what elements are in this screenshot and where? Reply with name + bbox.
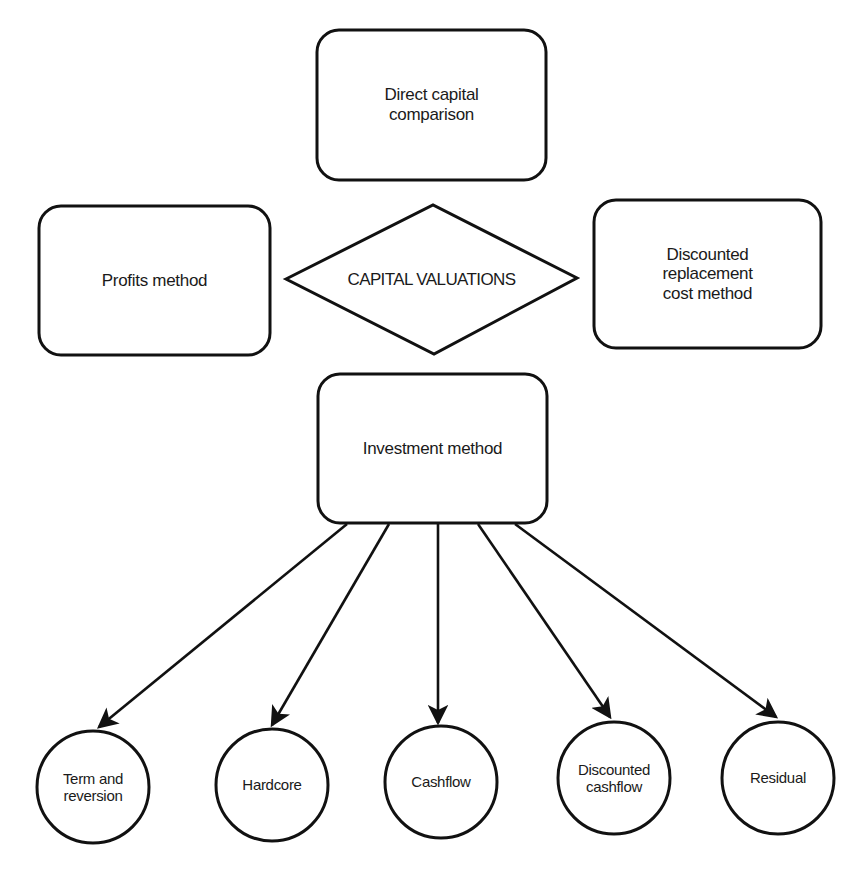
label-line: comparison bbox=[384, 105, 478, 125]
label-hardcore: Hardcore bbox=[216, 729, 328, 841]
label-profits-method: Profits method bbox=[39, 206, 270, 355]
label-line: cashflow bbox=[578, 778, 650, 795]
label-line: Cashflow bbox=[411, 773, 470, 790]
label-investment-method: Investment method bbox=[318, 374, 547, 523]
label-line: Term and bbox=[63, 770, 123, 787]
label-capital-valuations: CAPITAL VALUATIONS bbox=[286, 205, 577, 354]
label-line: CAPITAL VALUATIONS bbox=[347, 270, 515, 290]
label-direct-capital-comparison: Direct capital comparison bbox=[317, 30, 546, 180]
label-discounted-replacement-cost: Discounted replacement cost method bbox=[594, 200, 821, 348]
label-term-and-reversion: Term and reversion bbox=[37, 731, 149, 843]
edge-investment-to-dcf bbox=[478, 524, 610, 717]
label-discounted-cashflow: Discounted cashflow bbox=[558, 722, 670, 834]
label-line: Investment method bbox=[363, 439, 502, 459]
label-line: replacement bbox=[662, 264, 752, 284]
label-line: Direct capital bbox=[384, 85, 478, 105]
label-line: Discounted bbox=[662, 245, 752, 265]
label-line: Hardcore bbox=[242, 776, 301, 793]
label-line: Profits method bbox=[102, 271, 207, 291]
label-cashflow: Cashflow bbox=[385, 726, 497, 838]
label-line: Residual bbox=[750, 769, 806, 786]
label-line: Discounted bbox=[578, 761, 650, 778]
edge-investment-to-residual bbox=[515, 524, 776, 717]
label-line: reversion bbox=[63, 787, 123, 804]
edge-investment-to-hardcore bbox=[272, 524, 389, 725]
label-residual: Residual bbox=[722, 722, 834, 834]
label-line: cost method bbox=[662, 284, 752, 304]
edge-investment-to-term bbox=[99, 524, 347, 727]
